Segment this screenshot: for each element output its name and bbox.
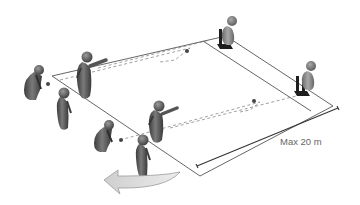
player-goalkeeper	[222, 16, 237, 45]
player	[94, 120, 114, 152]
pass-line-middle-2	[170, 95, 300, 128]
field-outline	[52, 36, 333, 176]
pass-line-top-2	[98, 40, 210, 68]
player	[24, 65, 44, 100]
ball	[185, 49, 189, 53]
pass-line-middle	[120, 102, 260, 140]
ball	[46, 82, 50, 86]
player	[57, 88, 71, 130]
ball	[119, 138, 123, 142]
dimension-label: Max 20 m	[280, 136, 322, 147]
player	[136, 135, 150, 179]
player-goalkeeper	[302, 61, 316, 90]
end-zone-line	[203, 41, 311, 111]
player-passer	[149, 101, 177, 143]
ball	[252, 99, 256, 103]
drill-diagram: Max 20 m	[0, 0, 360, 205]
player-passer	[77, 52, 106, 99]
